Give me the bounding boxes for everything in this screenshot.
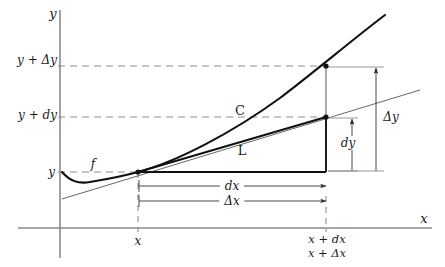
measure-label-delta-x: Δx <box>219 195 244 207</box>
y-tick-label-y-base: y <box>48 166 55 178</box>
x-axis-label: x <box>420 212 427 225</box>
curve-endpoint <box>323 63 328 68</box>
y-tick-label-y-plus-delta-y: y + Δy <box>17 54 57 66</box>
figure-canvas: y x y + Δy y + dy y x x + dx x + Δx f C … <box>0 0 445 267</box>
tangent-segment-l <box>138 117 326 172</box>
curve-label-c: C <box>235 104 245 117</box>
x-tick-label-x-base: x <box>135 235 142 247</box>
tangent-label-l: L <box>238 144 247 157</box>
x-tick-label-x-plus-delta-x: x + Δx <box>308 248 346 260</box>
measure-label-dy: dy <box>338 136 358 150</box>
diagram-svg <box>0 0 445 267</box>
y-axis-label: y <box>49 7 56 20</box>
x-tick-label-x-plus-dx: x + dx <box>308 234 345 246</box>
curve-c <box>62 15 385 183</box>
tangent-endpoint <box>323 114 328 119</box>
function-label-f: f <box>91 158 95 170</box>
y-tick-label-y-plus-dy: y + dy <box>18 109 57 121</box>
tangency-point <box>135 169 140 174</box>
measure-label-delta-y: Δy <box>380 110 401 124</box>
measure-label-dx: dx <box>220 180 244 192</box>
